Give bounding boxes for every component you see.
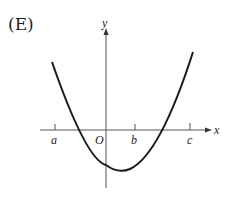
tick-label-b: b	[131, 133, 137, 148]
parabola-graph	[0, 0, 235, 198]
x-axis-arrow-icon	[205, 128, 212, 133]
parabola-curve	[52, 52, 193, 171]
x-axis-label: x	[214, 123, 219, 138]
tick-label-a: a	[51, 133, 57, 148]
y-axis-label: y	[102, 16, 107, 31]
origin-label: O	[95, 133, 104, 148]
tick-label-c: c	[187, 133, 192, 148]
